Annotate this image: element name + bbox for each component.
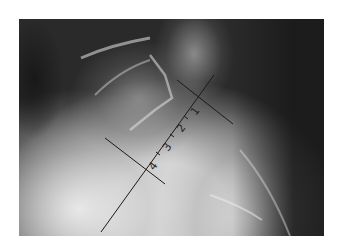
bone-contour: [210, 195, 262, 220]
bone-contour: [240, 150, 290, 236]
measurement-overlay: 1 2 3 4: [0, 0, 339, 252]
bone-contour: [95, 60, 150, 95]
segment-label-1: 1: [188, 104, 203, 117]
bone-contour: [81, 38, 150, 58]
segment-label-3: 3: [160, 140, 175, 153]
tick-mark: [184, 116, 188, 119]
lower-perpendicular-line: [105, 138, 165, 184]
segment-label-2: 2: [174, 121, 189, 134]
